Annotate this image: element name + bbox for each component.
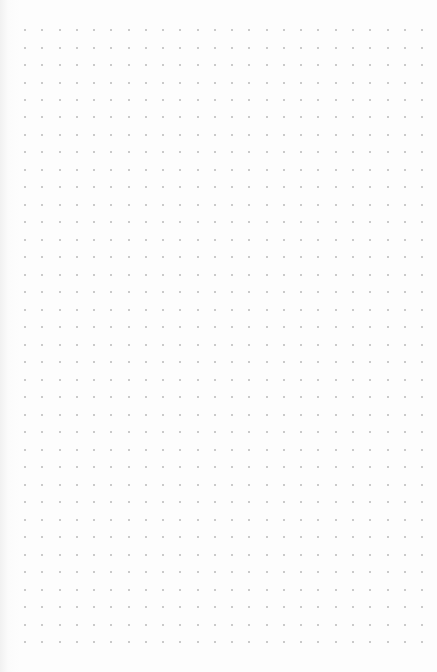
grid-dot bbox=[59, 431, 61, 433]
grid-dot bbox=[179, 274, 181, 276]
grid-dot bbox=[387, 484, 389, 486]
grid-dot bbox=[231, 606, 233, 608]
grid-dot bbox=[335, 204, 337, 206]
grid-dot bbox=[110, 554, 112, 556]
grid-dot bbox=[59, 274, 61, 276]
grid-dot bbox=[266, 186, 268, 188]
grid-dot bbox=[266, 641, 268, 643]
grid-dot bbox=[369, 116, 371, 118]
grid-dot bbox=[421, 431, 423, 433]
grid-dot bbox=[231, 554, 233, 556]
grid-dot bbox=[93, 151, 95, 153]
grid-dot bbox=[162, 256, 164, 258]
grid-dot bbox=[335, 256, 337, 258]
grid-dot bbox=[128, 484, 130, 486]
grid-dot bbox=[93, 134, 95, 136]
grid-dot bbox=[214, 274, 216, 276]
grid-dot bbox=[214, 309, 216, 311]
grid-dot bbox=[352, 449, 354, 451]
grid-dot bbox=[24, 274, 26, 276]
grid-dot bbox=[317, 501, 319, 503]
grid-dot bbox=[421, 29, 423, 31]
grid-dot bbox=[369, 379, 371, 381]
grid-dot bbox=[179, 379, 181, 381]
grid-dot bbox=[179, 449, 181, 451]
grid-dot bbox=[214, 186, 216, 188]
grid-dot bbox=[197, 554, 199, 556]
grid-dot bbox=[197, 186, 199, 188]
grid-dot bbox=[93, 326, 95, 328]
grid-dot bbox=[369, 431, 371, 433]
grid-dot bbox=[335, 449, 337, 451]
grid-dot bbox=[283, 466, 285, 468]
grid-dot bbox=[197, 239, 199, 241]
grid-dot bbox=[197, 29, 199, 31]
grid-dot bbox=[421, 291, 423, 293]
grid-dot bbox=[369, 47, 371, 49]
grid-dot bbox=[41, 501, 43, 503]
grid-dot bbox=[41, 291, 43, 293]
grid-dot bbox=[248, 326, 250, 328]
grid-dot bbox=[59, 519, 61, 521]
grid-dot bbox=[197, 361, 199, 363]
grid-dot bbox=[248, 99, 250, 101]
grid-dot bbox=[300, 47, 302, 49]
grid-dot bbox=[369, 82, 371, 84]
grid-dot bbox=[179, 221, 181, 223]
grid-dot bbox=[300, 151, 302, 153]
grid-dot bbox=[369, 169, 371, 171]
grid-dot bbox=[24, 624, 26, 626]
grid-dot bbox=[317, 344, 319, 346]
grid-dot bbox=[231, 466, 233, 468]
grid-dot bbox=[145, 361, 147, 363]
grid-dot bbox=[162, 116, 164, 118]
grid-dot bbox=[300, 379, 302, 381]
grid-dot bbox=[283, 449, 285, 451]
grid-dot bbox=[128, 589, 130, 591]
grid-dot bbox=[59, 449, 61, 451]
grid-dot bbox=[421, 606, 423, 608]
grid-dot bbox=[248, 641, 250, 643]
grid-dot bbox=[317, 204, 319, 206]
grid-dot bbox=[369, 151, 371, 153]
grid-dot bbox=[128, 414, 130, 416]
grid-dot bbox=[128, 116, 130, 118]
grid-dot bbox=[24, 204, 26, 206]
grid-dot bbox=[214, 501, 216, 503]
grid-dot bbox=[266, 344, 268, 346]
grid-dot bbox=[387, 82, 389, 84]
grid-dot bbox=[197, 466, 199, 468]
grid-dot bbox=[162, 29, 164, 31]
grid-dot bbox=[369, 501, 371, 503]
grid-dot bbox=[283, 64, 285, 66]
grid-dot bbox=[59, 606, 61, 608]
grid-dot bbox=[266, 396, 268, 398]
grid-dot bbox=[283, 379, 285, 381]
grid-dot bbox=[110, 589, 112, 591]
grid-dot bbox=[300, 291, 302, 293]
grid-dot bbox=[41, 361, 43, 363]
grid-dot bbox=[41, 29, 43, 31]
grid-dot bbox=[248, 466, 250, 468]
grid-dot bbox=[283, 221, 285, 223]
grid-dot bbox=[162, 519, 164, 521]
grid-dot bbox=[76, 274, 78, 276]
grid-dot bbox=[317, 64, 319, 66]
grid-dot bbox=[404, 571, 406, 573]
grid-dot bbox=[214, 624, 216, 626]
grid-dot bbox=[214, 64, 216, 66]
grid-dot bbox=[335, 169, 337, 171]
grid-dot bbox=[248, 501, 250, 503]
grid-dot bbox=[59, 414, 61, 416]
grid-dot bbox=[128, 624, 130, 626]
grid-dot bbox=[421, 186, 423, 188]
grid-dot bbox=[404, 47, 406, 49]
grid-dot bbox=[59, 361, 61, 363]
grid-dot bbox=[404, 554, 406, 556]
grid-dot bbox=[369, 256, 371, 258]
grid-dot bbox=[421, 414, 423, 416]
grid-dot bbox=[352, 536, 354, 538]
grid-dot bbox=[41, 239, 43, 241]
grid-dot bbox=[404, 501, 406, 503]
grid-dot bbox=[110, 484, 112, 486]
